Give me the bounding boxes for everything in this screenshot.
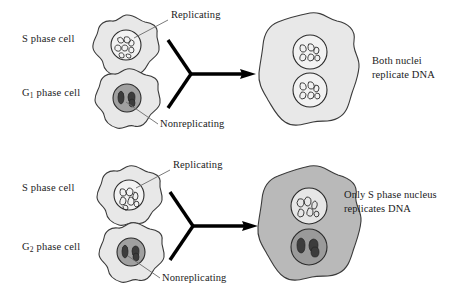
result-top-line-1: Both nuclei [372,54,435,68]
label-s-phase-cell-bottom: S phase cell [22,182,75,193]
arrowhead-top [240,69,256,79]
fused-cell-top [256,10,364,130]
label-g1-letter: G [22,87,30,98]
label-s-phase-cell-top: S phase cell [22,33,75,44]
leader-line-replicating-bottom [132,168,172,190]
fused-cell-bottom [254,163,366,285]
result-text-bottom: Only S phase nucleus replicates DNA [344,188,437,215]
label-g1-text: phase cell [37,87,81,98]
fusion-arrow-bottom [168,190,260,264]
result-bottom-line-2: replicates DNA [344,202,437,216]
label-g2-phase-cell: G2 phase cell [22,241,80,252]
fused-cell-bottom-shape [254,163,366,285]
label-g2-subscript: 2 [30,245,34,254]
cell-fusion-figure: S phase cell [0,0,463,296]
result-text-top: Both nuclei replicate DNA [372,54,435,81]
result-bottom-line-1: Only S phase nucleus [344,188,437,202]
fused-cell-top-shape [256,10,364,130]
leader-line-nonreplicating-bottom [126,254,164,280]
fused-top-nucleus-2-replicating [293,73,327,107]
fusion-arrow-top [166,38,258,112]
label-g1-phase-cell: G1 phase cell [22,87,80,98]
label-g1-subscript: 1 [30,91,34,100]
callout-nonreplicating-bottom: Nonreplicating [162,272,226,283]
callout-nonreplicating-top: Nonreplicating [160,118,224,129]
leader-line-nonreplicating-top [124,100,162,126]
result-top-line-2: replicate DNA [372,68,435,82]
panel-s-plus-g2: S phase cell Replicating [0,148,463,296]
fused-top-nucleus-1-replicating [293,35,327,69]
callout-replicating-top: Replicating [171,9,221,20]
label-g2-letter: G [22,241,30,252]
callout-replicating-bottom: Replicating [173,159,223,170]
label-g2-text: phase cell [37,241,81,252]
leader-line-replicating-top [130,18,170,40]
panel-s-plus-g1: S phase cell [0,0,463,148]
